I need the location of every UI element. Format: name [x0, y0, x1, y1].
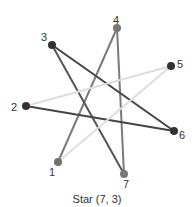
- node-label-6: 6: [179, 129, 185, 141]
- node-label-5: 5: [177, 58, 183, 70]
- edge-7-3: [52, 45, 124, 174]
- node-label-7: 7: [123, 178, 129, 190]
- node-label-1: 1: [49, 166, 55, 178]
- node-label-2: 2: [11, 101, 17, 113]
- node-label-3: 3: [41, 31, 47, 43]
- node-3: [48, 41, 56, 49]
- node-7: [120, 170, 128, 178]
- edge-4-7: [117, 28, 124, 174]
- diagram-caption: Star (7, 3): [73, 193, 122, 205]
- star-diagram: 1234567 Star (7, 3): [0, 0, 195, 207]
- node-label-4: 4: [113, 14, 119, 26]
- node-6: [170, 127, 178, 135]
- node-5: [167, 62, 175, 70]
- node-2: [22, 102, 30, 110]
- edges-group: [26, 28, 174, 174]
- edge-3-6: [52, 45, 174, 131]
- node-1: [54, 158, 62, 166]
